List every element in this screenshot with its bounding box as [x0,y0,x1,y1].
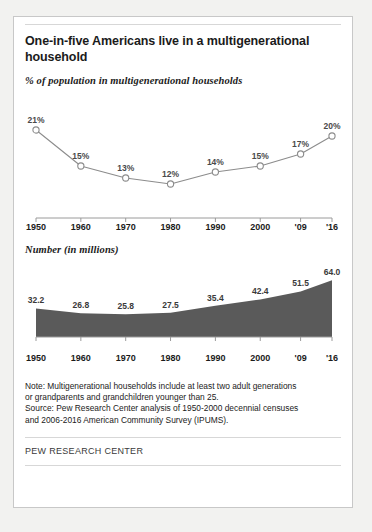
axis-tick-label: 2000 [250,222,270,232]
area-chart-plot: 32.226.825.827.535.442.451.564.0 [25,259,343,353]
area-chart-subtitle: Number (in millions) [25,244,341,255]
svg-text:51.5: 51.5 [292,278,309,288]
svg-text:35.4: 35.4 [207,293,224,303]
pew-research-center-brand: PEW RESEARCH CENTER [25,446,341,456]
svg-text:26.8: 26.8 [73,300,90,310]
line-chart-plot: 21%15%13%12%14%15%17%20% [25,92,343,222]
axis-tick-label: 1990 [205,353,225,363]
axis-tick-label: 1970 [116,353,136,363]
note-line-2: or grandparents and grandchildren younge… [25,392,341,403]
axis-tick-label: '16 [326,222,338,232]
axis-tick-label: 1950 [26,222,46,232]
top-divider [25,24,341,25]
axis-tick-label: '09 [295,222,307,232]
axis-tick-label: 1970 [116,222,136,232]
line-chart: 21%15%13%12%14%15%17%20% 195019601970198… [25,92,343,242]
note-line-3: Source: Pew Research Center analysis of … [25,403,341,414]
axis-tick-label: 1980 [161,353,181,363]
axis-tick-label: '16 [326,353,338,363]
area-chart: 32.226.825.827.535.442.451.564.0 1950196… [25,259,343,369]
svg-text:25.8: 25.8 [117,301,134,311]
axis-tick-label: 2000 [250,353,270,363]
axis-tick-label: 1990 [205,222,225,232]
line-chart-subtitle: % of population in multigenerational hou… [25,75,341,86]
svg-text:17%: 17% [292,139,309,149]
note-line-1: Note: Multigenerational households inclu… [25,381,341,392]
chart-card: One-in-five Americans live in a multigen… [13,16,353,508]
svg-text:15%: 15% [252,151,269,161]
area-chart-axis-labels: 195019601970198019902000'09'16 [25,353,343,369]
bottom-divider [25,465,341,466]
footer-divider [25,437,341,438]
svg-text:12%: 12% [162,169,179,179]
note-line-4: and 2006-2016 American Community Survey … [25,415,341,426]
svg-text:64.0: 64.0 [324,267,341,277]
chart-note: Note: Multigenerational households inclu… [25,381,341,426]
chart-title: One-in-five Americans live in a multigen… [25,34,341,65]
svg-text:27.5: 27.5 [162,300,179,310]
svg-text:13%: 13% [117,163,134,173]
axis-tick-label: 1980 [161,222,181,232]
line-chart-axis-labels: 195019601970198019902000'09'16 [25,222,343,238]
svg-text:20%: 20% [323,121,340,131]
axis-tick-label: 1960 [71,222,91,232]
axis-tick-label: 1960 [71,353,91,363]
axis-tick-label: '09 [295,353,307,363]
screenshot-canvas: One-in-five Americans live in a multigen… [0,0,372,532]
svg-text:21%: 21% [27,115,44,125]
svg-text:14%: 14% [207,157,224,167]
axis-tick-label: 1950 [26,353,46,363]
svg-text:15%: 15% [72,151,89,161]
svg-text:32.2: 32.2 [28,295,45,305]
svg-text:42.4: 42.4 [252,286,269,296]
